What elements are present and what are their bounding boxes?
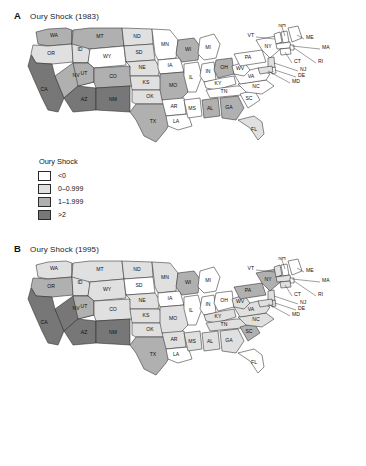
leader-line-ri bbox=[294, 281, 316, 296]
state-md bbox=[258, 299, 273, 307]
state-wi bbox=[176, 38, 200, 62]
state-label-md: MD bbox=[292, 78, 300, 84]
state-sd bbox=[124, 277, 155, 295]
legend-row: >2 bbox=[38, 209, 134, 221]
legend-label: 0–0.999 bbox=[58, 185, 83, 192]
legend-label: 1–1.999 bbox=[58, 198, 83, 205]
state-ga bbox=[220, 329, 244, 353]
state-ri bbox=[290, 278, 294, 283]
state-label-md: MD bbox=[292, 311, 300, 317]
state-ga bbox=[220, 96, 244, 120]
state-al bbox=[202, 331, 220, 351]
state-al bbox=[202, 98, 220, 118]
state-ar bbox=[162, 331, 186, 349]
legend-label: <0 bbox=[58, 172, 66, 179]
state-label-me: ME bbox=[306, 34, 314, 40]
state-label-nj: NJ bbox=[300, 66, 307, 72]
leader-line-ma bbox=[292, 279, 320, 282]
state-ar bbox=[162, 98, 186, 116]
state-nh bbox=[281, 264, 289, 276]
state-co bbox=[94, 66, 132, 88]
state-or bbox=[31, 44, 73, 64]
leader-line-md bbox=[268, 71, 290, 83]
leader-line-ri bbox=[294, 48, 316, 63]
state-wy bbox=[88, 46, 126, 68]
state-oh bbox=[214, 58, 234, 78]
state-me bbox=[288, 259, 302, 275]
panel-b: B Oury Shock (1995) WAORCAIDNVMTWYUTCOAZ… bbox=[0, 233, 366, 466]
leader-line-nj bbox=[274, 63, 298, 71]
state-ia bbox=[158, 291, 184, 307]
panel-a-header: A Oury Shock (1983) bbox=[14, 10, 99, 21]
state-ne bbox=[126, 60, 160, 76]
state-wi bbox=[176, 271, 200, 295]
legend-a: Oury Shock <00–0.9991–1.999>2 bbox=[38, 157, 134, 222]
figure-oury-shock-maps: A Oury Shock (1983) WAORCAIDNVMTWYUTCOAZ… bbox=[0, 0, 366, 466]
state-pa bbox=[234, 283, 266, 299]
state-ct bbox=[280, 281, 291, 288]
leader-line-ma bbox=[292, 46, 320, 49]
state-ia bbox=[158, 58, 184, 74]
state-mi bbox=[198, 34, 220, 60]
state-ri bbox=[290, 45, 294, 50]
state-label-nj: NJ bbox=[300, 299, 307, 305]
state-mn bbox=[152, 262, 178, 293]
map-a-svg: WAORCAIDNVMTWYUTCOAZNMNDSDNEKSOKTXMNIAMO… bbox=[18, 24, 358, 164]
state-label-ma: MA bbox=[322, 44, 330, 50]
state-il bbox=[184, 62, 202, 92]
leader-line-md bbox=[268, 304, 290, 316]
state-ks bbox=[130, 76, 162, 90]
state-nh bbox=[281, 31, 289, 43]
state-label-ri: RI bbox=[318, 58, 323, 64]
legend-a-title: Oury Shock bbox=[39, 157, 134, 166]
legend-label: >2 bbox=[58, 211, 66, 218]
legend-swatch bbox=[38, 210, 51, 220]
legend-a-items: <00–0.9991–1.999>2 bbox=[38, 170, 134, 221]
panel-a-letter: A bbox=[14, 10, 21, 21]
legend-row: <0 bbox=[38, 170, 134, 182]
legend-swatch bbox=[38, 184, 51, 194]
panel-a: A Oury Shock (1983) WAORCAIDNVMTWYUTCOAZ… bbox=[0, 0, 366, 233]
state-label-ri: RI bbox=[318, 291, 323, 297]
state-oh bbox=[214, 291, 234, 311]
legend-swatch bbox=[38, 197, 51, 207]
map-b-states bbox=[28, 259, 302, 375]
state-pa bbox=[234, 50, 266, 66]
map-b: WAORCAIDNVMTWYUTCOAZNMNDSDNEKSOKTXMNIAMO… bbox=[18, 257, 358, 397]
state-fl bbox=[238, 116, 264, 140]
state-il bbox=[184, 295, 202, 325]
state-label-vt: VT bbox=[247, 265, 254, 271]
state-mt bbox=[72, 28, 124, 49]
state-ct bbox=[280, 48, 291, 55]
panel-a-title: Oury Shock (1983) bbox=[30, 12, 99, 21]
state-or bbox=[31, 277, 73, 297]
legend-row: 0–0.999 bbox=[38, 183, 134, 195]
state-label-ct: CT bbox=[294, 291, 301, 297]
legend-swatch bbox=[38, 171, 51, 181]
state-mt bbox=[72, 261, 124, 282]
map-a-states bbox=[28, 26, 302, 142]
state-label-me: ME bbox=[306, 267, 314, 273]
panel-b-header: B Oury Shock (1995) bbox=[14, 243, 99, 254]
state-mn bbox=[152, 29, 178, 60]
state-me bbox=[288, 26, 302, 42]
leader-line-de bbox=[275, 70, 296, 77]
state-md bbox=[258, 66, 273, 74]
state-wa bbox=[36, 261, 72, 279]
panel-b-title: Oury Shock (1995) bbox=[30, 245, 99, 254]
state-nm bbox=[96, 86, 130, 112]
state-ne bbox=[126, 293, 160, 309]
state-sd bbox=[124, 44, 155, 62]
state-in bbox=[200, 295, 216, 315]
panel-b-letter: B bbox=[14, 243, 21, 254]
legend-row: 1–1.999 bbox=[38, 196, 134, 208]
state-wy bbox=[88, 279, 126, 301]
state-ks bbox=[130, 309, 162, 323]
state-label-ma: MA bbox=[322, 277, 330, 283]
map-b-svg: WAORCAIDNVMTWYUTCOAZNMNDSDNEKSOKTXMNIAMO… bbox=[18, 257, 358, 397]
map-a: WAORCAIDNVMTWYUTCOAZNMNDSDNEKSOKTXMNIAMO… bbox=[18, 24, 358, 164]
state-label-de: DE bbox=[298, 305, 306, 311]
state-in bbox=[200, 62, 216, 82]
state-nm bbox=[96, 319, 130, 345]
state-label-vt: VT bbox=[247, 32, 254, 38]
